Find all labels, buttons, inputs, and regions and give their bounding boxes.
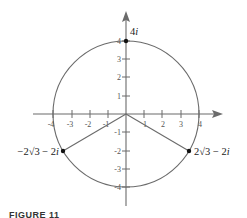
x-tick-label: 4: [198, 120, 202, 129]
y-tick-label: 4: [117, 37, 121, 46]
point-4i: [124, 39, 128, 43]
y-tick-label: -3: [114, 165, 121, 174]
x-tick-label: 3: [179, 120, 183, 129]
y-tick-label: 1: [117, 92, 121, 101]
x-tick-labels: -4 -3 -2 -1 1 2 3 4: [48, 120, 202, 129]
label-4i: 4i: [130, 26, 138, 37]
point-neg-2sqrt3-minus-2i: [61, 149, 65, 153]
x-tick-label: -2: [85, 120, 92, 129]
x-tick-label: 2: [161, 120, 165, 129]
x-tick-label: -3: [67, 120, 74, 129]
complex-plane-diagram: -4 -3 -2 -1 1 2 3 4 4 3 2 1 -1 -2 -3 -4 …: [0, 0, 247, 218]
real-axis: [33, 110, 223, 118]
y-tick-label: 2: [117, 73, 121, 82]
y-tick-label: -1: [114, 128, 121, 137]
y-tick-label: -4: [114, 183, 121, 192]
figure-caption: FIGURE 11: [9, 210, 60, 218]
label-neg-2sqrt3-minus-2i: −2√3 − 2i: [17, 146, 59, 157]
point-2sqrt3-minus-2i: [187, 149, 191, 153]
x-tick-label: -4: [48, 120, 55, 129]
label-2sqrt3-minus-2i: 2√3 − 2i: [194, 146, 230, 157]
y-tick-label: 3: [117, 55, 121, 64]
y-tick-label: -2: [114, 147, 121, 156]
